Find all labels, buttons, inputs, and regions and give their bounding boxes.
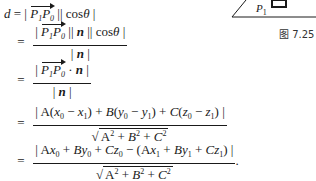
equation-line-4: = | A(x0 − x1) + B(y0 − y1) + C(z0 − z1)… <box>12 104 227 145</box>
plane-diagram <box>224 0 316 20</box>
fraction: | P1P0 · n | | n | <box>33 62 91 100</box>
equation-line-2: = | P1P0 || n || cosθ | | n | <box>12 24 127 62</box>
fraction: | A(x0 − x1) + B(y0 − y1) + C(z0 − z1) |… <box>33 104 227 145</box>
figure-caption: 图 7.25 <box>279 26 314 41</box>
figure-7-25: P1 <box>224 0 316 20</box>
equation-line-1: d = | P1P0 || cosθ | <box>4 6 95 23</box>
equation-line-3: = | P1P0 · n | | n | <box>12 62 91 100</box>
equation-line-5: = | Ax0 + By0 + Cz0 − (Ax1 + By1 + Cz1) … <box>12 142 239 181</box>
vector-p1p0: P1P0 <box>30 6 54 23</box>
point-label-p1: P1 <box>256 2 267 17</box>
fraction: | Ax0 + By0 + Cz0 − (Ax1 + By1 + Cz1) | … <box>33 142 235 181</box>
fraction: | P1P0 || n || cosθ | | n | <box>33 24 127 62</box>
